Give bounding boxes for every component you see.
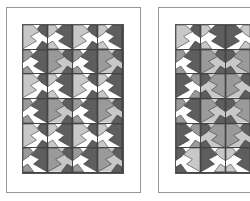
quilt-tile (73, 124, 98, 149)
quilt-tile (73, 50, 98, 75)
quilt-tile (226, 74, 250, 99)
quilt-tile (48, 99, 73, 124)
tile-pattern-icon (73, 148, 97, 172)
quilt-grid (22, 24, 124, 174)
quilt-grid (175, 24, 250, 174)
tile-pattern-icon (73, 25, 97, 49)
tile-pattern-icon (48, 148, 72, 172)
quilt-tile (226, 148, 250, 173)
tile-pattern-icon (73, 74, 97, 98)
tile-pattern-icon (176, 25, 200, 49)
tile-pattern-icon (98, 74, 122, 98)
quilt-tile (201, 99, 226, 124)
quilt-tile (226, 50, 250, 75)
tile-pattern-icon (226, 124, 250, 148)
tile-pattern-icon (73, 124, 97, 148)
tile-pattern-icon (226, 148, 250, 172)
quilt-tile (201, 50, 226, 75)
tile-pattern-icon (48, 74, 72, 98)
tile-pattern-icon (176, 148, 200, 172)
quilt-tile (176, 74, 201, 99)
quilt-tile (201, 74, 226, 99)
tile-pattern-icon (226, 99, 250, 123)
quilt-tile (98, 74, 123, 99)
tile-pattern-icon (73, 99, 97, 123)
tile-pattern-icon (201, 124, 225, 148)
quilt-tile (48, 74, 73, 99)
quilt-tile (23, 25, 48, 50)
quilt-tile (73, 74, 98, 99)
quilt-tile (98, 99, 123, 124)
quilt-tile (48, 124, 73, 149)
tile-pattern-icon (176, 74, 200, 98)
tile-pattern-icon (23, 25, 47, 49)
quilt-tile (23, 99, 48, 124)
quilt-tile (48, 25, 73, 50)
quilt-tile (201, 124, 226, 149)
tile-pattern-icon (23, 99, 47, 123)
tile-pattern-icon (98, 50, 122, 74)
tile-pattern-icon (48, 25, 72, 49)
quilt-tile (226, 25, 250, 50)
quilt-tile (201, 148, 226, 173)
tile-pattern-icon (98, 124, 122, 148)
tile-pattern-icon (48, 99, 72, 123)
tile-pattern-icon (201, 74, 225, 98)
tile-pattern-icon (23, 124, 47, 148)
quilt-tile (226, 99, 250, 124)
tile-pattern-icon (23, 148, 47, 172)
quilt-tile (73, 99, 98, 124)
quilt-tile (98, 25, 123, 50)
quilt-tile (98, 50, 123, 75)
quilt-tile (23, 124, 48, 149)
quilt-tile (23, 148, 48, 173)
quilt-tile (201, 25, 226, 50)
tile-pattern-icon (176, 99, 200, 123)
tile-pattern-icon (201, 50, 225, 74)
tile-pattern-icon (73, 50, 97, 74)
tile-pattern-icon (23, 50, 47, 74)
quilt-tile (23, 50, 48, 75)
tile-pattern-icon (98, 25, 122, 49)
quilt-tile (176, 148, 201, 173)
tile-pattern-icon (226, 25, 250, 49)
tile-pattern-icon (48, 124, 72, 148)
quilt-tile (73, 148, 98, 173)
quilt-tile (176, 25, 201, 50)
tile-pattern-icon (176, 124, 200, 148)
tile-pattern-icon (48, 50, 72, 74)
tile-pattern-icon (98, 99, 122, 123)
quilt-tile (73, 25, 98, 50)
tile-pattern-icon (201, 99, 225, 123)
quilt-tile (226, 124, 250, 149)
tile-pattern-icon (176, 50, 200, 74)
tile-pattern-icon (226, 74, 250, 98)
tile-pattern-icon (23, 74, 47, 98)
tile-pattern-icon (226, 50, 250, 74)
quilt-tile (98, 124, 123, 149)
quilt-tile (176, 99, 201, 124)
quilt-tile (176, 50, 201, 75)
tile-pattern-icon (98, 148, 122, 172)
tile-pattern-icon (201, 148, 225, 172)
quilt-tile (98, 148, 123, 173)
quilt-tile (176, 124, 201, 149)
tile-pattern-icon (201, 25, 225, 49)
quilt-tile (23, 74, 48, 99)
quilt-tile (48, 50, 73, 75)
quilt-tile (48, 148, 73, 173)
